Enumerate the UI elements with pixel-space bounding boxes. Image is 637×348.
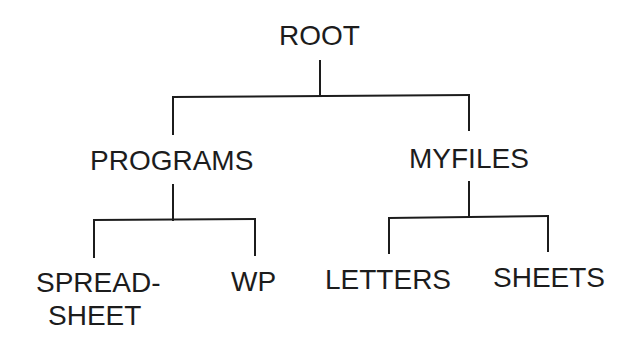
node-spreadsheet-line2: SHEET <box>36 299 160 332</box>
node-wp: WP <box>231 266 276 298</box>
node-root: ROOT <box>279 20 360 52</box>
node-myfiles: MYFILES <box>409 143 529 175</box>
connector-programs-bar <box>94 219 255 220</box>
node-spreadsheet: SPREAD- SHEET <box>36 266 160 332</box>
directory-tree-diagram: ROOT PROGRAMS MYFILES SPREAD- SHEET WP L… <box>0 0 637 348</box>
node-spreadsheet-line1: SPREAD- <box>36 267 160 298</box>
node-letters: LETTERS <box>325 264 451 296</box>
node-sheets: SHEETS <box>493 262 605 294</box>
node-programs: PROGRAMS <box>90 145 253 177</box>
connector-myfiles-bar <box>389 216 548 218</box>
connector-root-bar <box>173 95 469 97</box>
